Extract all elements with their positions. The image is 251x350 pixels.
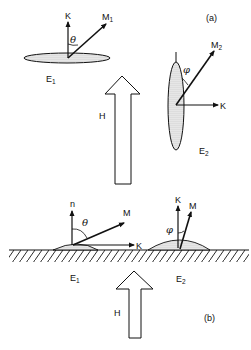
k-label-b1: K	[136, 241, 142, 251]
diagram-canvas: (a) K M1 θ E1 H M2 φ K E2	[0, 0, 251, 350]
e2-label-b: E2	[176, 274, 186, 285]
ellipse-e2: M2 φ K E2	[168, 40, 226, 157]
panel-b-label: (b)	[204, 313, 215, 323]
theta-label: θ	[70, 34, 76, 45]
substrate-surface	[9, 250, 249, 262]
field-arrow-b: H	[114, 271, 153, 338]
k-label-e2: K	[220, 101, 226, 111]
m-label-b2: M	[189, 201, 197, 211]
e2-label: E2	[199, 146, 209, 157]
field-arrow-a: H	[99, 76, 140, 184]
panel-a-label: (a)	[206, 13, 217, 23]
phi-angle-arc-b	[178, 231, 184, 233]
k-label: K	[65, 11, 71, 21]
e1-label: E1	[46, 74, 56, 85]
m2-label: M2	[211, 40, 223, 51]
phi-label: φ	[183, 64, 190, 75]
ellipse-e1: K M1 θ E1	[24, 11, 114, 85]
m-vector-arrow-b1	[73, 223, 124, 245]
e1-label-b: E1	[70, 273, 80, 284]
panel-b: n M K θ E1 K M φ E2 H (b)	[9, 195, 249, 338]
n-label: n	[70, 199, 75, 209]
theta-angle-arc-b	[72, 229, 87, 238]
h-label-a: H	[99, 111, 106, 121]
m1-label: M1	[102, 12, 114, 23]
diagram-svg: (a) K M1 θ E1 H M2 φ K E2	[0, 0, 251, 350]
k-label-b2: K	[175, 195, 181, 205]
m-label-b1: M	[123, 208, 131, 218]
theta-label-b: θ	[82, 217, 88, 228]
panel-a: (a) K M1 θ E1 H M2 φ K E2	[24, 11, 226, 184]
h-label-b: H	[114, 308, 121, 318]
phi-label-b: φ	[166, 224, 173, 235]
droplet-e1: n M K θ E1	[53, 199, 142, 284]
droplet-e2: K M φ E2	[148, 195, 210, 285]
